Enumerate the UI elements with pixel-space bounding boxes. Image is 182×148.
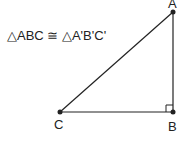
triangle-diagram: △ABC ≅ △A'B'C' A B C xyxy=(0,0,182,148)
side-ca xyxy=(60,12,173,112)
vertex-c-point xyxy=(58,110,63,115)
vertex-b-label: B xyxy=(168,119,177,134)
vertex-a-label: A xyxy=(168,0,177,11)
vertex-c-label: C xyxy=(54,117,63,132)
congruence-statement: △ABC ≅ △A'B'C' xyxy=(7,28,106,43)
vertex-b-point xyxy=(171,110,176,115)
